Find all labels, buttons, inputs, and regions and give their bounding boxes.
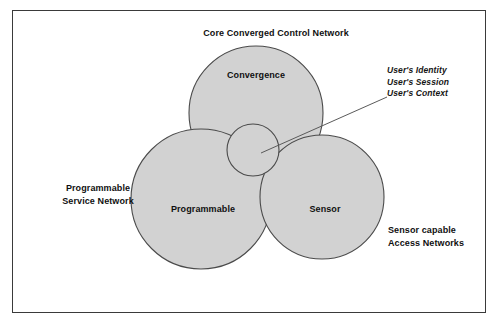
label-sensor: Sensor	[290, 203, 360, 216]
label-programmable-service-network: Programmable Service Network	[48, 182, 148, 207]
annotation-user-attributes: User's Identity User's Session User's Co…	[387, 65, 493, 100]
figure-root: Core Converged Control Network Convergen…	[0, 0, 501, 329]
label-core-converged-control-network: Core Converged Control Network	[176, 27, 376, 40]
label-sensor-capable-access-networks: Sensor capable Access Networks	[388, 224, 488, 249]
figure-caption	[12, 318, 482, 329]
label-convergence: Convergence	[196, 69, 316, 82]
venn-diagram-graphic	[0, 0, 501, 329]
circle-center-intersection	[227, 124, 279, 176]
label-programmable: Programmable	[153, 203, 253, 216]
